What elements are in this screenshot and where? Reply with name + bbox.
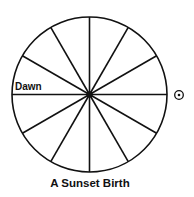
house-wheel-diagram bbox=[0, 0, 194, 197]
house-cusp-line bbox=[51, 95, 90, 162]
house-cusp-line bbox=[90, 56, 157, 95]
house-cusp-line bbox=[51, 27, 90, 94]
house-cusp-line bbox=[90, 95, 157, 134]
house-cusp-line bbox=[90, 95, 129, 162]
house-cusp-line bbox=[22, 95, 89, 134]
center-point bbox=[86, 91, 92, 97]
house-cusp-line bbox=[90, 27, 129, 94]
dawn-label: Dawn bbox=[15, 81, 42, 93]
diagram-caption: A Sunset Birth bbox=[0, 176, 180, 190]
sun-icon bbox=[175, 91, 184, 100]
